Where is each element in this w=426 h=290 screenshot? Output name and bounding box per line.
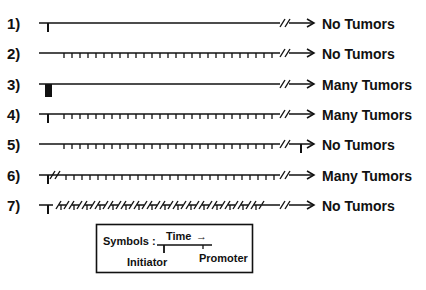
high-dose-initiator-icon [45, 84, 52, 97]
protocol-row: 2)No Tumors [7, 45, 395, 62]
symbols-legend: Symbols : Time → Initiator Promoter [97, 225, 253, 273]
outcome-label: No Tumors [322, 16, 395, 32]
outcome-label: No Tumors [322, 46, 395, 62]
outcome-label: No Tumors [322, 198, 395, 214]
legend-initiator-label: Initiator [127, 256, 168, 268]
legend-promoter-label: Promoter [199, 252, 249, 264]
protocol-row: 3)Many Tumors [7, 76, 412, 97]
row-number: 4) [7, 106, 20, 123]
protocol-row: 4)Many Tumors [7, 106, 412, 123]
time-break-icon [280, 171, 285, 179]
row-number: 5) [7, 136, 20, 153]
protocol-row: 6)Many Tumors [7, 167, 412, 184]
row-number: 3) [7, 76, 20, 93]
protocol-row: 5)No Tumors [7, 136, 395, 153]
outcome-label: No Tumors [322, 137, 395, 153]
outcome-label: Many Tumors [322, 107, 412, 123]
legend-title: Symbols : [103, 235, 156, 247]
row-number: 1) [7, 15, 20, 32]
time-break-icon [280, 49, 285, 57]
protocol-rows: 1)No Tumors2)No Tumors3)Many Tumors4)Man… [7, 15, 412, 214]
time-break-icon [280, 201, 285, 209]
time-break-icon [280, 80, 285, 88]
legend-time-label: Time [166, 230, 191, 242]
protocol-row: 1)No Tumors [7, 15, 395, 32]
initiation-promotion-diagram: 1)No Tumors2)No Tumors3)Many Tumors4)Man… [0, 0, 426, 290]
row-number: 2) [7, 45, 20, 62]
protocol-row: 7)No Tumors [7, 197, 395, 214]
time-break-icon [280, 110, 285, 118]
outcome-label: Many Tumors [322, 168, 412, 184]
time-break-icon [280, 140, 285, 148]
legend-time-arrow: → [196, 230, 207, 242]
time-break-icon [280, 19, 285, 27]
row-number: 7) [7, 197, 20, 214]
outcome-label: Many Tumors [322, 77, 412, 93]
row-number: 6) [7, 167, 20, 184]
